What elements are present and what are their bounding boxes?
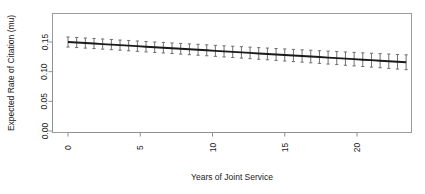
- x-tick-label: 15: [280, 143, 290, 153]
- y-axis: [49, 42, 53, 131]
- x-tick-label: 20: [352, 143, 362, 153]
- x-axis: [68, 133, 357, 137]
- x-tick-label: 5: [135, 145, 145, 150]
- x-tick-labels: 05101520: [63, 143, 362, 153]
- x-tick-label: 10: [208, 143, 218, 153]
- y-tick-label: 0.00: [40, 122, 50, 139]
- y-tick-labels: 0.000.050.100.15: [40, 33, 50, 139]
- chart-figure: 0.000.050.100.15 05101520 Expected Rate …: [0, 0, 425, 194]
- y-tick-label: 0.05: [40, 93, 50, 110]
- y-tick-label: 0.15: [40, 33, 50, 50]
- error-bars: [66, 37, 407, 70]
- y-tick-label: 0.10: [40, 63, 50, 80]
- y-axis-title: Expected Rate of Citation (mu): [6, 15, 16, 131]
- plot-frame: [53, 14, 412, 133]
- plot-canvas: 0.000.050.100.15 05101520 Expected Rate …: [0, 0, 425, 194]
- x-tick-label: 0: [63, 145, 73, 150]
- x-axis-title: Years of Joint Service: [191, 172, 273, 182]
